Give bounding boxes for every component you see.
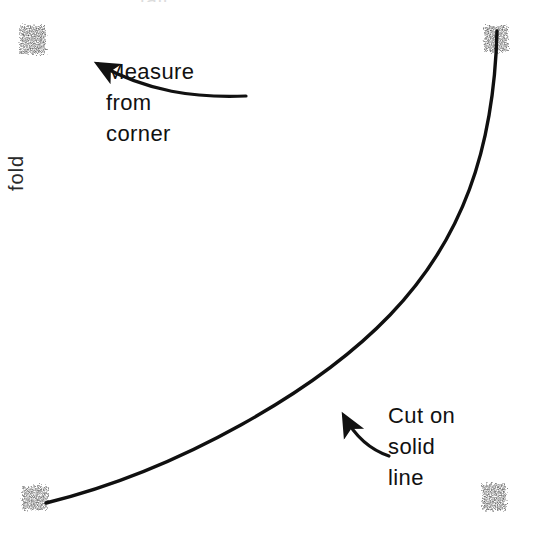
pattern-diagram <box>0 0 536 543</box>
diagram-page: tail fold <box>0 0 536 543</box>
cut-arrow <box>344 416 389 456</box>
annotation-measure-from-corner: Measure from corner <box>106 56 194 149</box>
annotation-cut-on-solid-line: Cut on solid line <box>388 400 455 493</box>
